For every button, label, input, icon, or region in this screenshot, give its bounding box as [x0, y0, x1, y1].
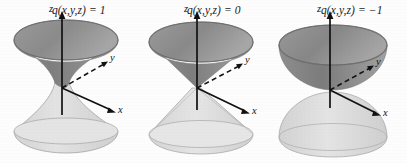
x-axis-label: x: [252, 105, 257, 116]
upper-sheet: [279, 25, 387, 90]
x-axis-label: x: [118, 104, 123, 115]
quadric-surfaces-figure: q(x,y,z) = 1 z y x: [0, 0, 407, 163]
equation-label-cone: q(x,y,z) = 0: [187, 4, 241, 16]
z-axis-label: z: [49, 3, 53, 14]
equation-label-two-sheet: q(x,y,z) = −1: [321, 4, 383, 16]
panel-two-sheet: q(x,y,z) = −1 z y x: [271, 0, 407, 163]
panel-one-sheet: q(x,y,z) = 1 z y x: [0, 0, 136, 163]
lower-nappe: [149, 88, 253, 154]
y-axis-label: y: [376, 56, 381, 67]
y-axis-label: y: [245, 54, 250, 65]
one-sheet-drawing: [0, 0, 136, 163]
z-axis-label: z: [184, 3, 188, 14]
upper-sheet: [14, 20, 118, 88]
upper-nappe: [149, 22, 253, 88]
lower-sheet: [14, 82, 118, 153]
z-axis-label: z: [317, 3, 321, 14]
equation-label-one-sheet: q(x,y,z) = 1: [52, 4, 106, 16]
x-axis-label: x: [383, 107, 388, 118]
panel-cone: q(x,y,z) = 0 z y x: [135, 0, 271, 163]
cone-drawing: [135, 0, 271, 163]
lower-sheet: [279, 92, 387, 157]
two-sheet-drawing: [271, 0, 407, 163]
y-axis-label: y: [110, 52, 115, 63]
